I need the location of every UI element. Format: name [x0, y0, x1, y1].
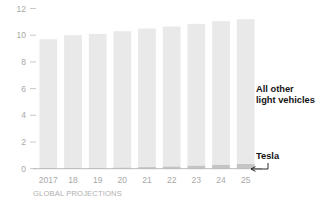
- bar-group: [237, 19, 255, 169]
- bar-group: [89, 34, 107, 169]
- y-tick-label: 10: [17, 30, 27, 40]
- y-tick-group: 12: [17, 4, 36, 14]
- x-axis-tick-labels: 20171819202122232425: [39, 175, 251, 185]
- bar-segment-all-other-light-vehicles: [187, 24, 205, 166]
- y-tick-label: 12: [17, 4, 27, 14]
- y-tick-label: 2: [21, 137, 26, 147]
- bar-group: [187, 24, 205, 169]
- x-tick-label: 25: [241, 175, 251, 185]
- bar-segment-tesla: [237, 164, 255, 169]
- y-axis: 12 10 8 6 4 2: [17, 4, 36, 174]
- y-tick-group: 4: [21, 110, 36, 120]
- y-tick-group: 6: [21, 84, 36, 94]
- x-tick-label: 21: [142, 175, 152, 185]
- bar-segment-all-other-light-vehicles: [138, 29, 156, 168]
- bar-segment-all-other-light-vehicles: [39, 39, 57, 168]
- bars-layer: [39, 19, 254, 169]
- all-other-label-line1: All other: [256, 84, 294, 94]
- bar-segment-all-other-light-vehicles: [64, 35, 82, 168]
- bar-group: [212, 21, 230, 169]
- bar-segment-all-other-light-vehicles: [89, 34, 107, 168]
- x-tick-label: 20: [118, 175, 128, 185]
- x-tick-label: 24: [216, 175, 226, 185]
- y-tick-label: 8: [21, 57, 26, 67]
- x-tick-label: 18: [68, 175, 78, 185]
- bar-segment-all-other-light-vehicles: [163, 27, 181, 167]
- y-tick-group: 8: [21, 57, 36, 67]
- x-axis-caption: GLOBAL PROJECTIONS: [33, 189, 122, 198]
- bar-segment-tesla: [212, 165, 230, 169]
- all-other-light-vehicles-annotation: All other light vehicles: [256, 84, 315, 105]
- x-tick-label: 23: [192, 175, 202, 185]
- tesla-label: Tesla: [256, 151, 280, 161]
- all-other-label-line2: light vehicles: [256, 95, 315, 105]
- x-tick-label: 19: [93, 175, 103, 185]
- bar-group: [39, 39, 57, 169]
- bar-group: [64, 35, 82, 169]
- y-tick-label: 0: [21, 164, 26, 174]
- bar-segment-all-other-light-vehicles: [237, 19, 255, 164]
- bar-segment-all-other-light-vehicles: [113, 31, 131, 167]
- bar-group: [113, 31, 131, 169]
- y-tick-label: 4: [21, 110, 26, 120]
- bar-chart: 12 10 8 6 4 2: [0, 0, 324, 204]
- y-tick-label: 6: [21, 84, 26, 94]
- bar-group: [138, 29, 156, 169]
- bar-segment-all-other-light-vehicles: [212, 21, 230, 165]
- y-tick-group: 2: [21, 137, 36, 147]
- bar-group: [163, 27, 181, 169]
- x-tick-label: 22: [167, 175, 177, 185]
- chart-canvas: 12 10 8 6 4 2: [0, 0, 324, 204]
- y-tick-group: 10: [17, 30, 36, 40]
- x-tick-label: 2017: [39, 175, 58, 185]
